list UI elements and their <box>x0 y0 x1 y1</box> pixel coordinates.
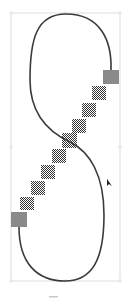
resize-handle-br[interactable] <box>119 280 122 283</box>
control-point[interactable] <box>52 149 66 163</box>
resize-handle-bl[interactable] <box>10 280 13 283</box>
control-point[interactable] <box>72 119 86 133</box>
control-point[interactable] <box>82 103 96 117</box>
control-point[interactable] <box>62 133 77 148</box>
anchor-handle-bottom-left[interactable] <box>11 212 27 227</box>
control-point[interactable] <box>92 86 106 100</box>
resize-handle-r[interactable] <box>119 146 122 149</box>
resize-handle-l[interactable] <box>10 146 13 149</box>
footer-label <box>44 292 64 296</box>
control-point[interactable] <box>20 197 34 210</box>
editor-canvas[interactable] <box>0 0 132 299</box>
control-point[interactable] <box>31 181 45 195</box>
resize-handle-tl[interactable] <box>10 12 13 15</box>
footer-mark <box>49 296 58 298</box>
control-points[interactable] <box>20 86 106 210</box>
control-point[interactable] <box>41 165 55 179</box>
cursor-arrow-icon <box>107 179 112 186</box>
anchor-handle-top-right[interactable] <box>103 70 119 84</box>
resize-handle-tr[interactable] <box>119 12 122 15</box>
